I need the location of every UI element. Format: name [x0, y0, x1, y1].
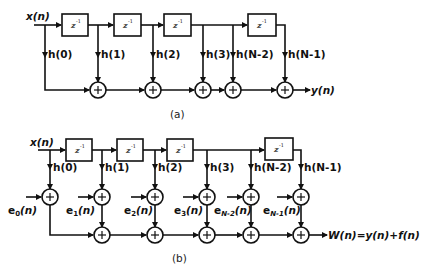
fir-diagram: x(n) z-1 z-1 z-1 z-1 — [0, 0, 423, 271]
output-label-b: W(n)=y(n)+f(n) — [328, 229, 420, 241]
adder — [94, 189, 110, 205]
caption-b: (b) — [172, 252, 187, 264]
delay-block: z-1 — [164, 14, 191, 36]
svg-text:-1: -1 — [279, 142, 284, 148]
adder — [225, 82, 241, 98]
tap-label: h(1) — [105, 161, 129, 173]
tap-label: h(3) — [210, 161, 234, 173]
wire — [293, 150, 301, 189]
input-label-a: x(n) — [25, 10, 50, 22]
delay-block: z-1 — [66, 139, 92, 161]
adder — [147, 189, 163, 205]
tap-label: h(N-2) — [254, 161, 292, 173]
adder — [243, 227, 259, 243]
part-a: x(n) z-1 z-1 z-1 z-1 — [25, 10, 335, 120]
delay-block: z-1 — [117, 139, 143, 161]
adder — [293, 189, 309, 205]
error-label: e2(n) — [124, 204, 153, 218]
adder — [145, 82, 161, 98]
tap-label: h(2) — [158, 161, 182, 173]
adder — [147, 227, 163, 243]
tap-label: h(N-1) — [304, 161, 342, 173]
adder — [94, 227, 110, 243]
adder — [195, 82, 211, 98]
delay-block: z-1 — [265, 138, 293, 160]
delay-block: z-1 — [248, 14, 276, 36]
delay-block: z-1 — [114, 14, 141, 36]
error-label: e0(n) — [8, 204, 37, 218]
delay-block: z-1 — [62, 14, 88, 36]
svg-text:-1: -1 — [76, 18, 81, 24]
tap-label: h(1) — [101, 48, 125, 60]
output-label-a: y(n) — [311, 84, 335, 96]
svg-text:-1: -1 — [131, 143, 136, 149]
input-label-b: x(n) — [29, 136, 54, 148]
svg-text:-1: -1 — [80, 143, 85, 149]
svg-text:-1: -1 — [181, 143, 186, 149]
svg-text:-1: -1 — [178, 18, 183, 24]
adder — [243, 189, 259, 205]
adder — [293, 227, 309, 243]
adder — [199, 189, 215, 205]
tap-label: h(N-2) — [236, 48, 274, 60]
adder — [199, 227, 215, 243]
delay-block: z-1 — [167, 139, 193, 161]
adder — [90, 82, 106, 98]
adder — [277, 82, 293, 98]
part-b: x(n) z-1 z-1 z-1 z-1 — [8, 136, 420, 264]
tap-label: h(0) — [48, 48, 72, 60]
tap-label: h(2) — [156, 48, 180, 60]
error-label: e3(n) — [174, 204, 203, 218]
error-label: eN-1(n) — [263, 204, 301, 218]
error-label: eN-2(n) — [214, 204, 252, 218]
svg-text:-1: -1 — [128, 18, 133, 24]
caption-a: (a) — [170, 108, 185, 120]
adder — [42, 189, 58, 205]
tap-label: h(0) — [53, 161, 77, 173]
tap-label: h(3) — [206, 48, 230, 60]
tap-label: h(N-1) — [288, 48, 326, 60]
error-label: e1(n) — [66, 204, 95, 218]
svg-text:-1: -1 — [262, 18, 267, 24]
